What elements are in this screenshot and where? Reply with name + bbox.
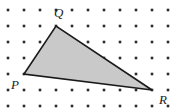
lattice-dot: [87, 89, 90, 92]
lattice-dot: [151, 105, 154, 108]
lattice-dot: [103, 9, 106, 12]
lattice-dot: [119, 9, 122, 12]
lattice-dot: [151, 41, 154, 44]
lattice-dot: [87, 41, 90, 44]
lattice-triangle-figure: PQR: [0, 0, 179, 112]
lattice-dot: [55, 89, 58, 92]
lattice-dot: [167, 41, 170, 44]
lattice-dot: [23, 9, 26, 12]
lattice-dot: [103, 105, 106, 108]
vertex-label-r: R: [159, 93, 167, 106]
lattice-dot: [103, 41, 106, 44]
lattice-dot: [7, 105, 10, 108]
lattice-dot: [87, 9, 90, 12]
figure-canvas: [0, 0, 179, 112]
lattice-dot: [23, 57, 26, 60]
lattice-dot: [135, 41, 138, 44]
lattice-dot: [87, 25, 90, 28]
lattice-dot: [119, 105, 122, 108]
lattice-dot: [39, 25, 42, 28]
lattice-dot: [135, 105, 138, 108]
triangle-pqr: [24, 26, 152, 90]
lattice-dot: [119, 41, 122, 44]
lattice-dot: [151, 57, 154, 60]
lattice-dot: [119, 25, 122, 28]
lattice-dot: [135, 25, 138, 28]
lattice-dot: [23, 25, 26, 28]
lattice-dot: [119, 89, 122, 92]
lattice-dot: [39, 105, 42, 108]
lattice-dot: [135, 89, 138, 92]
lattice-dot: [7, 73, 10, 76]
lattice-dot: [23, 89, 26, 92]
lattice-dot: [71, 105, 74, 108]
lattice-dot: [103, 25, 106, 28]
lattice-dot: [151, 73, 154, 76]
lattice-dot: [135, 9, 138, 12]
lattice-dot: [71, 89, 74, 92]
lattice-dot: [71, 9, 74, 12]
vertex-label-p: P: [11, 78, 19, 91]
lattice-dot: [7, 25, 10, 28]
lattice-dot: [167, 105, 170, 108]
lattice-dot: [39, 9, 42, 12]
lattice-dot: [151, 25, 154, 28]
lattice-dot: [167, 25, 170, 28]
lattice-dot: [39, 41, 42, 44]
lattice-dot: [167, 89, 170, 92]
lattice-dot: [55, 105, 58, 108]
lattice-dot: [7, 9, 10, 12]
lattice-dot: [23, 105, 26, 108]
lattice-dot: [7, 57, 10, 60]
lattice-dot: [39, 89, 42, 92]
lattice-dot: [71, 25, 74, 28]
lattice-dot: [23, 41, 26, 44]
lattice-dot: [151, 9, 154, 12]
lattice-dot: [135, 57, 138, 60]
lattice-dot: [167, 57, 170, 60]
lattice-dot: [7, 41, 10, 44]
lattice-dot: [135, 73, 138, 76]
lattice-dot: [167, 9, 170, 12]
lattice-dot: [87, 105, 90, 108]
lattice-dot: [119, 57, 122, 60]
lattice-dot: [7, 89, 10, 92]
vertex-label-q: Q: [54, 6, 63, 19]
lattice-dot: [103, 89, 106, 92]
lattice-dot: [167, 73, 170, 76]
